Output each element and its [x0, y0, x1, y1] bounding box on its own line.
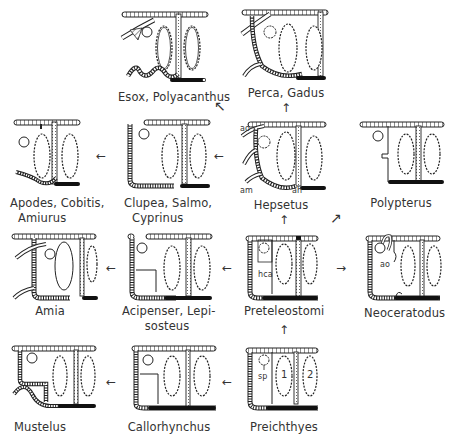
annotation-ao-neoceratodus: ao	[380, 260, 390, 269]
diagram-esox-polyacanthus	[120, 10, 212, 90]
label-line-2: Cyprinus	[124, 211, 214, 226]
label-hepsetus: Hepsetus	[246, 198, 316, 213]
annotation-ao-hepsetus: ao	[240, 124, 250, 133]
label-mustelus: Mustelus	[14, 420, 74, 435]
label-preichthyes: Preichthyes	[244, 420, 324, 435]
diagram-polypterus	[358, 120, 450, 194]
label-line-1: Clupea, Salmo,	[124, 196, 214, 211]
arrow-callorhynchus-to-mustelus: ←	[106, 376, 116, 388]
diagram-clupea-salmo-cyprinus	[124, 118, 214, 196]
arrow-hepsetus-to-clupea: ←	[214, 150, 224, 162]
label-esox-polyacanthus: Esox, Polyacanthus	[118, 90, 218, 105]
label-acipenser-lepisosteus: Acipenser, Lepi- sosteus	[122, 304, 212, 334]
arrow-preichthyes-to-callorhynchus: ←	[222, 376, 232, 388]
annotation-sp-preichthyes: sp	[258, 372, 267, 381]
arrow-preichthyes-to-preteleostomi: ↑	[279, 324, 289, 336]
arrow-acipenser-to-amia: ←	[106, 262, 116, 274]
diagram-perca-gadus	[240, 8, 332, 88]
label-callorhynchus: Callorhynchus	[124, 420, 214, 435]
diagram-apodes-cobitis-amiurus	[12, 118, 102, 196]
diagram-preichthyes	[244, 346, 334, 420]
arrow-preteleostomi-to-polypterus: ↗	[330, 212, 342, 224]
arrow-preteleostomi-to-hepsetus: ↑	[279, 214, 289, 226]
label-clupea-salmo-cyprinus: Clupea, Salmo, Cyprinus	[124, 196, 214, 226]
arrow-preteleostomi-to-neoceratodus: →	[336, 262, 346, 274]
annotation-ah-hepsetus: ah	[292, 186, 302, 195]
label-perca-gadus: Perca, Gadus	[246, 86, 326, 101]
arrow-preteleostomi-to-acipenser: ←	[222, 262, 232, 274]
label-neoceratodus: Neoceratodus	[364, 306, 444, 321]
annotation-2-preichthyes: 2	[307, 370, 313, 380]
diagram-hepsetus	[240, 120, 332, 200]
annotation-am-hepsetus: am	[240, 186, 253, 195]
arrow-hepsetus-to-perca: ↑	[281, 102, 291, 114]
diagram-acipenser-lepisosteus	[126, 232, 216, 308]
arrow-hepsetus-to-esox: ↖	[214, 100, 226, 112]
diagram-mustelus	[10, 344, 100, 418]
annotation-hca-preteleostomi: hca	[258, 270, 273, 279]
diagram-callorhynchus	[130, 344, 220, 418]
label-line-1: Apodes, Cobitis,	[10, 196, 100, 211]
arrow-clupea-to-apodes: ←	[96, 150, 106, 162]
label-amia: Amia	[30, 304, 70, 319]
label-polypterus: Polypterus	[366, 196, 436, 211]
label-line-1: Acipenser, Lepi-	[122, 304, 212, 319]
annotation-1-preichthyes: 1	[281, 370, 287, 380]
label-line-2: Amiurus	[10, 211, 100, 226]
diagram-amia	[10, 232, 100, 308]
label-apodes-cobitis-amiurus: Apodes, Cobitis, Amiurus	[10, 196, 100, 226]
label-line-2: sosteus	[122, 319, 212, 334]
label-preteleostomi: Preteleostomi	[244, 304, 324, 319]
diagram-neoceratodus	[364, 232, 454, 308]
